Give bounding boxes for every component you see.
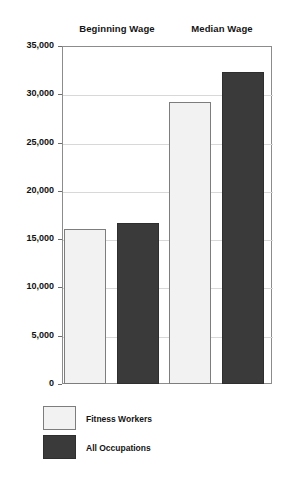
y-tick-label: 20,000 [0,185,54,195]
y-tick-label: 10,000 [0,281,54,291]
y-tick-mark [58,94,62,95]
y-tick-mark [58,143,62,144]
y-tick-label: 25,000 [0,137,54,147]
y-tick-mark [58,191,62,192]
y-tick-label: 35,000 [0,40,54,50]
bar-fitness-workers-median-wage [169,102,211,384]
legend-label-fitness-workers: Fitness Workers [86,414,152,424]
y-tick-label: 0 [0,378,54,388]
y-tick-label: 5,000 [0,330,54,340]
y-tick-mark [58,239,62,240]
group-header-median-wage: Median Wage [167,23,277,34]
y-tick-mark [58,336,62,337]
legend-swatch-fitness-workers [43,406,76,430]
legend-label-all-occupations: All Occupations [86,443,151,453]
y-tick-mark [58,384,62,385]
y-tick-label: 30,000 [0,88,54,98]
y-tick-label: 15,000 [0,233,54,243]
bar-fitness-workers-beginning-wage [64,229,106,384]
group-header-beginning-wage: Beginning Wage [62,23,172,34]
bar-all-occupations-beginning-wage [117,223,159,384]
y-tick-mark [58,46,62,47]
y-tick-mark [58,287,62,288]
bar-chart: Beginning Wage Median Wage 05,00010,0001… [0,0,291,482]
bar-all-occupations-median-wage [222,72,264,384]
legend-swatch-all-occupations [43,435,76,459]
